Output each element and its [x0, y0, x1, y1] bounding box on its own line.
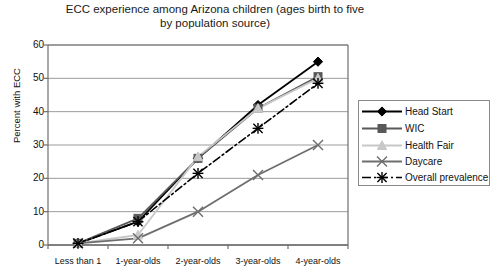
x-tick-1: 1-year-olds: [108, 256, 168, 266]
legend-key-wic-icon: [359, 120, 405, 137]
x-tick-3: 3-year-olds: [228, 256, 288, 266]
legend-label-daycare: Daycare: [405, 156, 442, 167]
legend-label-health-fair: Health Fair: [405, 140, 454, 151]
legend-item-wic[interactable]: WIC: [359, 120, 491, 137]
marker-asterisk: [313, 78, 324, 89]
x-tick-2: 2-year-olds: [168, 256, 228, 266]
marker-square: [378, 125, 386, 133]
marker-asterisk: [193, 168, 204, 179]
marker-asterisk: [253, 123, 264, 134]
legend-item-daycare[interactable]: Daycare: [359, 153, 491, 170]
x-tick-4: 4-year-olds: [288, 256, 348, 266]
legend-key-head-start-icon: [359, 103, 405, 120]
marker-asterisk: [377, 172, 388, 183]
legend-key-overall-prevalence-icon: [359, 169, 405, 186]
x-tick-0: Less than 1: [48, 256, 108, 266]
legend-item-health-fair[interactable]: Health Fair: [359, 137, 491, 154]
marker-diamond: [377, 107, 386, 116]
legend-item-overall-prevalence[interactable]: Overall prevalence: [359, 169, 491, 186]
chart-container: ECC experience among Arizona children (a…: [0, 0, 497, 280]
chart-legend: Head Start WIC Health Fair Daycare Overa…: [358, 100, 490, 186]
legend-key-health-fair-icon: [359, 137, 405, 154]
legend-label-overall-prevalence: Overall prevalence: [405, 172, 488, 183]
legend-label-wic: WIC: [405, 123, 424, 134]
legend-label-head-start: Head Start: [405, 106, 453, 117]
legend-key-daycare-icon: [359, 153, 405, 170]
marker-asterisk: [73, 238, 84, 249]
legend-item-head-start[interactable]: Head Start: [359, 103, 491, 120]
marker-asterisk: [133, 216, 144, 227]
